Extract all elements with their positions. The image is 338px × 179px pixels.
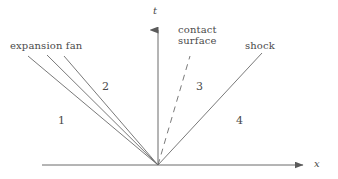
region-label-2: 2 xyxy=(102,81,109,93)
expansion-fan-ray-2 xyxy=(47,55,158,165)
t-axis-label: t xyxy=(153,5,157,16)
expansion-fan-label: expansion fan xyxy=(10,40,82,51)
figure-canvas: expansion fan contactsurface shock t x 1… xyxy=(0,0,338,179)
region-label-1: 1 xyxy=(58,115,65,127)
expansion-fan-ray-1 xyxy=(28,56,158,165)
xt-wave-diagram xyxy=(0,0,338,179)
contact-surface-label-line1: contact xyxy=(178,24,217,35)
x-axis-label: x xyxy=(314,158,320,169)
shock-line xyxy=(158,53,262,165)
contact-surface-label-line2: surface xyxy=(178,35,217,46)
expansion-fan-ray-3 xyxy=(64,56,158,165)
contact-surface-line xyxy=(158,56,190,165)
region-label-4: 4 xyxy=(236,115,243,127)
region-label-3: 3 xyxy=(196,81,203,93)
shock-label: shock xyxy=(245,40,275,51)
contact-surface-label: contactsurface xyxy=(178,24,217,46)
